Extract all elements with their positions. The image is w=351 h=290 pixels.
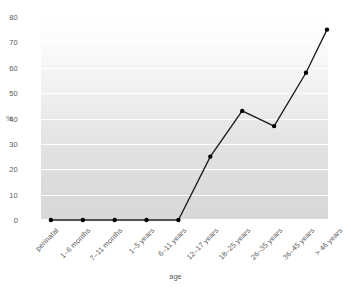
x-tick-label-12-17-years: 12–17 years [185,226,221,262]
y-tick-label-60: 60 [0,64,18,73]
y-tick-label-0: 0 [0,216,18,225]
x-axis-title: age [0,272,351,281]
x-tick-label-perinatal: perinatal [34,226,61,253]
y-tick-label-80: 80 [0,13,18,22]
gridline-80 [41,17,328,18]
gridline-20 [41,169,328,170]
gridline-40 [41,119,328,120]
y-tick-label-40: 40 [0,115,18,124]
x-tick-label-36-45-years: 36–45 years [281,226,317,262]
y-tick-label-50: 50 [0,89,18,98]
y-tick-label-10: 10 [0,191,18,200]
gridline-60 [41,68,328,69]
x-tick-label-over-46-years: > 46 years [313,226,344,257]
gridline-10 [41,195,328,196]
gridline-0 [41,219,328,220]
x-tick-label-18-25-years: 18–25 years [217,226,253,262]
gridline-30 [41,144,328,145]
y-tick-label-20: 20 [0,165,18,174]
line-chart: % 80 70 60 50 40 30 20 10 0 perinatal 1–… [0,0,351,290]
gridline-50 [41,93,328,94]
y-tick-label-30: 30 [0,140,18,149]
gridline-70 [41,42,328,43]
x-tick-label-26-35-years: 26–35 years [249,226,285,262]
plot-area [41,17,328,220]
y-tick-label-70: 70 [0,38,18,47]
x-tick-label-1-5-years: 1–5 years [127,226,157,256]
x-tick-label-7-11-months: 7–11 months [88,226,125,263]
x-tick-label-6-11-years: 6–11 years [156,226,188,258]
